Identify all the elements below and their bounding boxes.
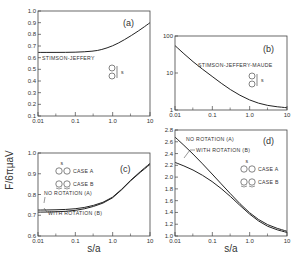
- y-tick-label: 10: [166, 70, 173, 76]
- y-tick-label: 100: [163, 33, 174, 39]
- y-tick-label: 1.6: [165, 198, 174, 204]
- svg-text:s: s: [61, 160, 64, 166]
- panel-c: 0.010.11.0100.60.70.80.91.0(c)sCASE ACAS…: [28, 150, 154, 244]
- y-tick-label: 0.3: [28, 90, 37, 96]
- series-line: [175, 46, 287, 108]
- y-tick-label: 0.7: [28, 212, 37, 218]
- curve-annotation: STIMSON-JEFFERY-MAUDE: [198, 62, 273, 68]
- panel-label: (a): [123, 18, 134, 28]
- x-tick-label: 1.0: [108, 118, 117, 124]
- panel-d: 0.010.11.0101.01.21.41.61.82.02.22.42.62…: [165, 127, 291, 244]
- y-tick-label: 0.1: [28, 113, 37, 119]
- x-tick-label: 10: [147, 118, 154, 124]
- legend-case-b: CASE B: [73, 181, 94, 187]
- annotation-no-rotation: NO ROTATION (A): [186, 136, 234, 142]
- y-tick-label: 0.8: [28, 31, 37, 37]
- sphere-pair-icon: s: [109, 65, 124, 79]
- y-tick-label: 1.4: [165, 209, 174, 215]
- x-axis-label-c: s/a: [87, 243, 101, 254]
- svg-text:s: s: [246, 158, 249, 164]
- figure-canvas: 0.010.11.0100.10.20.30.40.50.60.70.80.91…: [0, 0, 298, 260]
- x-axis-label-d: s/a: [224, 243, 238, 254]
- x-tick-label: 0.1: [208, 112, 217, 118]
- y-axis-label: F/6πμaV: [4, 150, 15, 190]
- x-tick-label: 1.0: [245, 112, 254, 118]
- y-tick-label: 0.4: [28, 78, 37, 84]
- x-tick-label: 0.1: [208, 238, 217, 244]
- panel-label: (d): [263, 136, 274, 146]
- annotation-no-rotation: NO ROTATION (A): [44, 190, 92, 196]
- curve-annotation: STIMSON-JEFFERY: [42, 55, 95, 61]
- y-tick-label: 0.6: [28, 233, 37, 239]
- x-tick-label: 10: [284, 238, 291, 244]
- annotation-with-rotation: WITH ROTATION (B): [48, 210, 102, 216]
- x-tick-label: 1.0: [108, 238, 117, 244]
- series-line: [175, 162, 287, 232]
- x-tick-label: 0.1: [71, 118, 80, 124]
- svg-text:s: s: [121, 69, 124, 75]
- y-tick-label: 0.8: [28, 192, 37, 198]
- x-tick-label: 10: [147, 238, 154, 244]
- x-tick-label: 1.0: [245, 238, 254, 244]
- y-tick-label: 0.9: [28, 171, 37, 177]
- y-tick-label: 0.7: [28, 43, 37, 49]
- legend-case-a: CASE A: [258, 166, 279, 172]
- panel-b: 0.010.11.010110100(b)STIMSON-JEFFERY-MAU…: [163, 33, 291, 118]
- y-tick-label: 2.0: [165, 174, 174, 180]
- legend-case-b: CASE B: [258, 179, 279, 185]
- svg-text:s: s: [261, 77, 264, 83]
- sphere-pair-icon: s: [249, 73, 264, 87]
- x-tick-label: 10: [284, 112, 291, 118]
- y-tick-label: 2.6: [165, 139, 174, 145]
- y-tick-label: 0.5: [28, 66, 37, 72]
- y-tick-label: 0.6: [28, 55, 37, 61]
- y-tick-label: 0.2: [28, 101, 37, 107]
- series-line: [38, 163, 150, 210]
- legend-case-a: CASE A: [73, 168, 94, 174]
- y-tick-label: 0.9: [28, 20, 37, 26]
- panel-label: (c): [120, 164, 131, 174]
- y-tick-label: 1.8: [165, 186, 174, 192]
- panel-a: 0.010.11.0100.10.20.30.40.50.60.70.80.91…: [28, 8, 154, 124]
- y-tick-label: 2.2: [165, 162, 174, 168]
- y-tick-label: 1.2: [165, 221, 174, 227]
- y-tick-label: 1.0: [28, 8, 37, 14]
- panel-label: (b): [263, 44, 274, 54]
- x-tick-label: 0.1: [71, 238, 80, 244]
- y-tick-label: 2.8: [165, 127, 174, 133]
- y-tick-label: 1.0: [165, 233, 174, 239]
- y-tick-label: 2.4: [165, 151, 174, 157]
- annotation-with-rotation: WITH ROTATION (B): [196, 147, 250, 153]
- y-tick-label: 1.0: [28, 150, 37, 156]
